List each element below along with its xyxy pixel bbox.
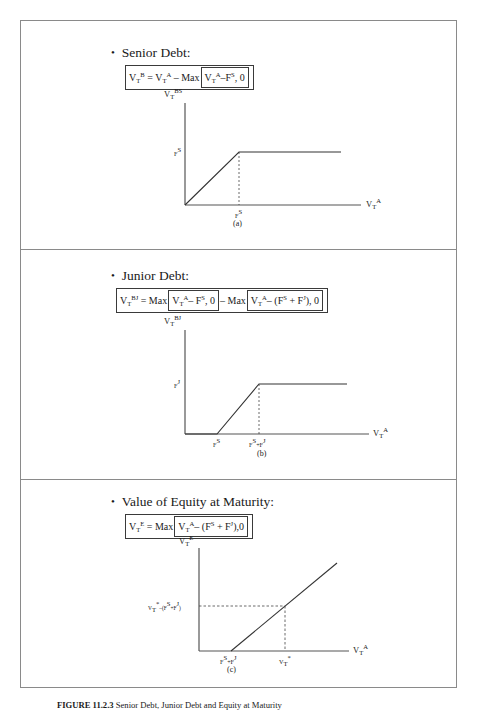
sublabel-a: (a)	[233, 219, 242, 228]
formula-b2: V	[251, 295, 258, 306]
x-axis-label-a: VTA	[366, 197, 381, 210]
formula-t1-sub: T	[186, 526, 190, 533]
formula-eq-max: = Max	[147, 521, 173, 532]
formula-b2-tail: ), 0	[306, 295, 319, 306]
formula-lhs-sub: T	[136, 77, 140, 84]
figure-caption-label: FIGURE 11.2.3	[57, 700, 114, 710]
formula-lhs-sup: B	[140, 71, 144, 78]
sublabel-b: (b)	[257, 449, 266, 458]
y-tick-b-sup: J	[177, 378, 180, 385]
bullet-row-equity: • Value of Equity at Maturity:	[111, 494, 274, 509]
formula-t1-rest: – (F	[194, 521, 210, 532]
formula-box-1: VTA– FS, 0	[168, 290, 219, 311]
chart-junior-debt: VTBJ VTA FJ FS FS+FJ (b)	[161, 316, 416, 471]
formula-t1: V	[178, 521, 185, 532]
x-axis-label-b-sub: T	[379, 432, 383, 439]
formula-lhs-sup: E	[140, 520, 144, 527]
formula-inner-box: VTA–FS, 0	[201, 67, 249, 88]
x-tick-c-2-star: *	[288, 654, 291, 661]
formula-eq: =	[147, 72, 153, 83]
x-tick-c-2-sub: T	[283, 660, 287, 667]
y-axis-label-b-sup: BJ	[174, 314, 181, 321]
formula-senior-debt: VTB = VTA – MaxVTA–FS, 0	[125, 65, 254, 90]
y-axis-label-a: VTBS	[164, 87, 182, 100]
formula-b2-sub: T	[258, 300, 262, 307]
panel-senior-debt: • Senior Debt: VTB = VTA – MaxVTA–FS, 0 …	[21, 21, 456, 249]
x-axis-label-b: VTA	[373, 426, 388, 439]
x-axis-label-c-sub: T	[359, 649, 363, 656]
formula-lhs-sup: BJ	[131, 294, 138, 301]
payoff-curve	[185, 384, 347, 434]
y-tick-a: FS	[174, 146, 181, 157]
heading-junior-debt: Junior Debt:	[122, 268, 189, 283]
y-tick-c-rest: –(F	[159, 605, 167, 611]
formula-b2-rest: – (F	[267, 295, 283, 306]
heading-senior-debt: Senior Debt:	[122, 45, 191, 60]
formula-t1-sup: A	[166, 71, 171, 78]
formula-lhs-sub: T	[127, 300, 131, 307]
sublabel-c: (c)	[227, 665, 236, 674]
formula-b1-sub: T	[179, 300, 183, 307]
bullet-icon: •	[111, 45, 115, 59]
y-axis-label-b-sub: T	[170, 320, 174, 327]
bullet-row-senior-debt: • Senior Debt:	[111, 45, 190, 60]
chart-junior-debt-svg	[161, 316, 416, 471]
bullet-icon: •	[111, 494, 115, 508]
x-tick-a: FS	[235, 208, 242, 219]
formula-junior-debt: VTBJ = MaxVTA– FS, 0– MaxVTA– (FS + FJ),…	[116, 288, 328, 313]
y-axis-label-a-sub: T	[170, 93, 174, 100]
panel-junior-debt: • Junior Debt: VTBJ = MaxVTA– FS, 0– Max…	[21, 249, 456, 479]
panel-equity: • Value of Equity at Maturity: VTE = Max…	[21, 479, 456, 687]
x-tick-b-2-sup2: J	[263, 437, 266, 444]
x-tick-a-sup: S	[238, 208, 242, 215]
x-axis-label-c-sup: A	[363, 643, 368, 650]
x-axis-label-a-sub: T	[372, 203, 376, 210]
formula-b2-plus: + F	[287, 295, 303, 306]
formula-inner-tail: , 0	[235, 72, 245, 83]
formula-tail: ),0	[233, 521, 244, 532]
x-tick-b-1: FS	[213, 437, 220, 448]
y-tick-b: FJ	[174, 378, 180, 389]
heading-equity: Value of Equity at Maturity:	[122, 494, 274, 509]
y-tick-c-sub: T	[152, 606, 156, 613]
x-axis-label-b-sup: A	[383, 426, 388, 433]
x-tick-b-2: FS+FJ	[249, 437, 266, 448]
y-axis-label-c: VTE	[179, 534, 193, 547]
x-axis-label-a-sup: A	[376, 197, 381, 204]
x-tick-c-1-sup2: J	[234, 654, 237, 661]
bullet-row-junior-debt: • Junior Debt:	[111, 268, 189, 283]
x-tick-c-2: VT*	[279, 654, 291, 667]
figure-caption-text: Senior Debt, Junior Debt and Equity at M…	[116, 700, 282, 710]
y-tick-a-sup: S	[177, 146, 181, 153]
formula-b1-tail: , 0	[205, 295, 215, 306]
formula-inner-rest: –F	[221, 72, 232, 83]
payoff-curve	[231, 563, 337, 651]
chart-equity: VTE VTA VT*–(FS+FJ) FS+FJ VT* (c)	[121, 538, 421, 683]
payoff-curve	[185, 152, 341, 205]
formula-t1-sub: T	[162, 77, 166, 84]
formula-lhs-sub: T	[136, 526, 140, 533]
y-axis-label-a-sup: BS	[174, 87, 182, 94]
figure-frame: • Senior Debt: VTB = VTA – MaxVTA–FS, 0 …	[20, 20, 457, 688]
y-axis-label-c-sup: E	[189, 534, 193, 541]
formula-inner-sub: T	[212, 77, 216, 84]
y-axis-label-b: VTBJ	[164, 314, 181, 327]
chart-senior-debt-svg	[161, 91, 411, 241]
formula-box-2: VTA– (FS + FJ), 0	[247, 290, 323, 311]
formula-minus-max: – Max	[174, 72, 200, 83]
formula-plus: + F	[214, 521, 230, 532]
formula-eq-max: = Max	[141, 295, 167, 306]
figure-caption: FIGURE 11.2.3 Senior Debt, Junior Debt a…	[57, 700, 457, 711]
x-tick-c-1: FS+FJ	[220, 654, 237, 665]
y-tick-c: VT*–(FS+FJ)	[148, 600, 181, 613]
bullet-icon: •	[111, 268, 115, 282]
y-axis-label-c-sub: T	[185, 540, 189, 547]
chart-senior-debt: VTBS VTA FS FS (a)	[161, 91, 411, 241]
x-tick-b-1-sup: S	[216, 437, 220, 444]
formula-inner: V	[205, 72, 212, 83]
x-axis-label-c: VTA	[353, 643, 368, 656]
formula-b1-rest: – F	[188, 295, 201, 306]
formula-mid-max: – Max	[220, 295, 246, 306]
y-tick-c-tail: )	[179, 605, 181, 611]
